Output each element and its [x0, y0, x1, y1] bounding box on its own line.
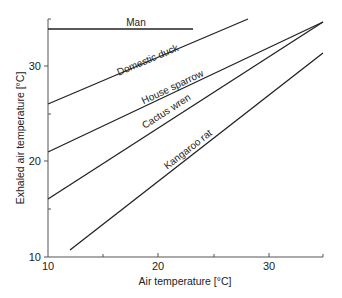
- x-tick-label: 20: [152, 260, 164, 272]
- y-tick-label: 10: [29, 251, 41, 263]
- line-cactus-wren: [48, 22, 323, 199]
- axes: [44, 19, 323, 257]
- y-tick-label: 20: [29, 155, 41, 167]
- label-man: Man: [126, 17, 145, 28]
- label-kangaroo-rat: Kangaroo rat: [162, 127, 215, 171]
- line-kangaroo-rat: [70, 53, 323, 250]
- y-tick-label: 30: [29, 60, 41, 72]
- y-axis-title: Exhaled air temperature [°C]: [14, 72, 26, 205]
- label-domestic-duck: Domestic duck: [115, 42, 181, 78]
- x-axis-title: Air temperature [°C]: [139, 275, 232, 287]
- chart: 10 20 30 10 20 30 Air temperature [°C] E…: [0, 0, 342, 298]
- x-tick-label: 10: [42, 260, 54, 272]
- x-tick-label: 30: [263, 260, 275, 272]
